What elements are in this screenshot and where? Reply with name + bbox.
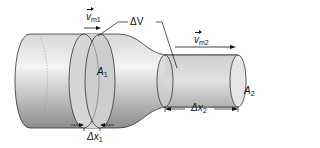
delta-x2-label: Δx2 — [191, 103, 207, 114]
velocity-2-label: vm2 — [194, 35, 209, 46]
area-1 — [85, 34, 115, 128]
volume-label: ΔV — [130, 17, 143, 27]
delta-x1-label: Δx1 — [87, 132, 103, 143]
velocity-1-label: vm1 — [86, 12, 101, 23]
area-2 — [230, 55, 246, 107]
area-2-left-edge — [157, 55, 173, 107]
slice-2 — [165, 55, 238, 107]
area-2-label: A2 — [244, 86, 255, 97]
area-1-label: A1 — [97, 67, 108, 78]
